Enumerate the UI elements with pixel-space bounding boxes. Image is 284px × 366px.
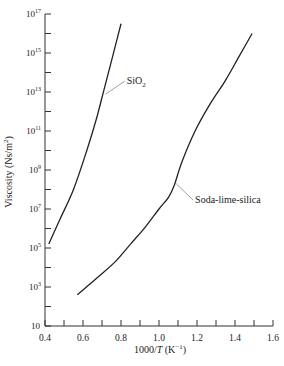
x-tick-label: 0.4 xyxy=(39,333,51,343)
y-tick-label: 109 xyxy=(29,164,41,175)
viscosity-chart: 101031051071091011101310151017 0.40.60.8… xyxy=(0,0,284,366)
series-lines xyxy=(49,24,252,295)
y-tick-label: 105 xyxy=(29,242,41,253)
x-tick-label: 1.4 xyxy=(229,333,241,343)
x-tick-label: 1.2 xyxy=(191,333,203,343)
x-axis: 0.40.60.81.01.21.41.6 xyxy=(39,320,279,343)
series-line-sio xyxy=(49,24,121,244)
x-tick-label: 1.0 xyxy=(153,333,165,343)
y-axis-label: Viscosity (Ns/m2) xyxy=(2,136,15,208)
series-label: SiO2 xyxy=(127,75,147,89)
series-label: Soda-lime-silica xyxy=(195,194,261,205)
y-tick-label: 103 xyxy=(29,281,41,292)
x-tick-label: 1.6 xyxy=(267,333,279,343)
series-labels: SiO2Soda-lime-silica xyxy=(106,75,261,205)
x-tick-label: 0.8 xyxy=(115,333,127,343)
leader-line xyxy=(106,81,125,94)
y-tick-label: 1011 xyxy=(26,125,41,136)
series-line-soda-lime-silica xyxy=(77,34,252,295)
y-tick-label: 1017 xyxy=(26,8,41,19)
y-tick-label: 1013 xyxy=(26,86,41,97)
y-axis: 101031051071091011101310151017 xyxy=(26,8,51,331)
x-tick-label: 0.6 xyxy=(77,333,89,343)
y-tick-label: 107 xyxy=(29,203,41,214)
leader-line xyxy=(176,184,193,201)
x-axis-label: 1000/T (K−1) xyxy=(134,343,186,356)
y-tick-label: 10 xyxy=(31,321,41,331)
y-tick-label: 1015 xyxy=(26,47,41,58)
